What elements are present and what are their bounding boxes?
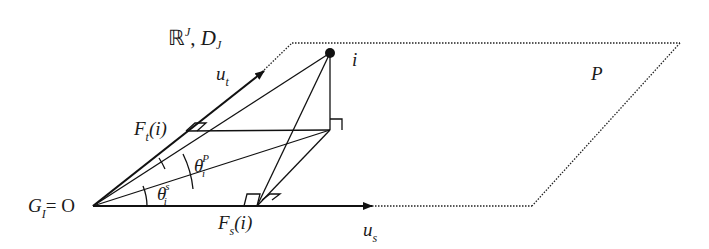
projection-diagram: ℝJ, DJ i P ut us Ft(i) Fs(i) θPi θsi GI=… [0,0,709,249]
u-s-label: us [363,219,378,245]
point-i-label: i [352,49,357,70]
point-i-marker [325,48,335,58]
theta-s-label: θsi [157,180,170,207]
theta-p-label: θPi [194,152,209,179]
plane-p-label: P [590,63,603,84]
space-label: ℝJ, DJ [168,25,222,52]
f-t-label: Ft(i) [133,118,167,144]
u-t-axis-arrow [93,71,264,206]
origin-label: GI= O [28,195,75,221]
plane-p-outline [262,43,680,206]
u-t-label: ut [216,63,230,89]
f-s-label: Fs(i) [217,212,252,238]
